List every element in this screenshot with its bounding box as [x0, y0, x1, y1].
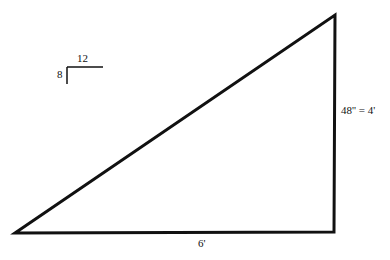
pitch-rise-label: 8 — [57, 69, 63, 80]
base-label: 6' — [198, 238, 205, 249]
height-label: 48'' = 4' — [341, 105, 375, 116]
right-triangle — [15, 15, 335, 233]
pitch-run-label: 12 — [77, 53, 88, 64]
triangle-diagram — [0, 0, 390, 260]
pitch-symbol — [67, 67, 103, 84]
